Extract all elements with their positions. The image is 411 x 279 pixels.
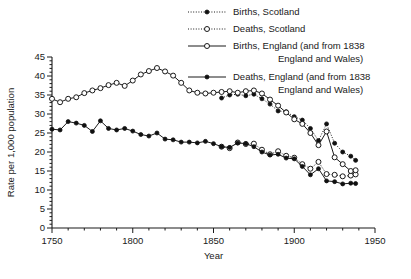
data-point	[179, 80, 184, 85]
data-point	[220, 145, 224, 149]
data-point	[74, 95, 79, 100]
data-point	[147, 134, 151, 138]
y-tick-label: 10	[34, 184, 45, 195]
y-tick-label: 20	[34, 146, 45, 157]
data-point	[308, 173, 312, 177]
data-point	[107, 126, 111, 130]
data-point	[98, 86, 103, 91]
x-tick-label: 1800	[122, 235, 143, 246]
data-point	[354, 158, 358, 162]
legend-marker-1	[205, 27, 210, 32]
data-point	[308, 166, 313, 171]
data-point	[187, 140, 191, 144]
data-point	[353, 168, 358, 173]
data-point	[66, 120, 70, 124]
data-point	[276, 103, 281, 108]
x-tick-label: 1850	[203, 235, 224, 246]
data-point	[260, 97, 264, 101]
y-tick-label: 40	[34, 70, 45, 81]
data-point	[228, 145, 232, 149]
data-point	[333, 141, 337, 145]
data-point	[90, 88, 95, 93]
births-deaths-line-chart: 05101520253035404517501800185019001950Ye…	[0, 0, 411, 279]
legend-marker-0	[205, 10, 209, 14]
data-point	[244, 94, 248, 98]
data-point	[324, 172, 329, 177]
data-point	[259, 91, 264, 96]
data-point	[138, 72, 143, 77]
data-point	[90, 129, 94, 133]
data-point	[220, 96, 224, 100]
data-point	[308, 126, 312, 130]
data-point	[163, 69, 168, 74]
data-point	[123, 126, 127, 130]
legend-label-0: Births, Scotland	[233, 6, 300, 17]
y-tick-label: 5	[40, 203, 45, 214]
data-point	[114, 80, 119, 85]
y-axis-title: Rate per 1,000 population	[5, 88, 16, 197]
data-point	[292, 157, 296, 161]
data-point	[300, 164, 304, 168]
data-point	[332, 155, 337, 160]
x-tick-label: 1750	[41, 235, 62, 246]
y-tick-label: 35	[34, 89, 45, 100]
data-point	[58, 128, 62, 132]
data-point	[171, 73, 176, 78]
series-births-scotland	[220, 92, 358, 162]
data-point	[349, 181, 353, 185]
data-point	[179, 140, 183, 144]
data-point	[236, 141, 240, 145]
data-point	[284, 156, 288, 160]
data-point	[235, 90, 240, 95]
legend-marker-2	[205, 44, 210, 49]
data-point	[98, 119, 102, 123]
legend-marker-3	[205, 75, 209, 79]
y-tick-label: 15	[34, 165, 45, 176]
data-point	[130, 78, 135, 83]
data-point	[316, 159, 321, 164]
data-point	[308, 131, 313, 136]
data-point	[251, 88, 256, 93]
data-point	[115, 128, 119, 132]
data-point	[325, 179, 329, 183]
data-point	[171, 138, 175, 142]
chart-legend: Births, ScotlandDeaths, ScotlandBirths, …	[188, 6, 370, 95]
data-point	[333, 180, 337, 184]
data-point	[82, 91, 87, 96]
data-point	[212, 142, 216, 146]
data-point	[66, 96, 71, 101]
data-point	[340, 174, 345, 179]
data-point	[284, 110, 289, 115]
data-point	[146, 69, 151, 74]
legend-label-cont-3: England and Wales)	[278, 84, 363, 95]
data-point	[50, 96, 55, 101]
data-point	[300, 121, 305, 126]
legend-label-3: Deaths, England (and from 1838	[233, 71, 370, 82]
data-point	[268, 97, 273, 102]
data-point	[316, 143, 321, 148]
data-point	[348, 169, 353, 174]
data-point	[154, 66, 159, 71]
data-point	[122, 83, 127, 88]
data-point	[276, 109, 280, 113]
data-point	[325, 122, 329, 126]
y-tick-label: 0	[40, 222, 45, 233]
data-point	[276, 152, 280, 156]
data-point	[74, 121, 78, 125]
x-axis-title: Year	[204, 250, 223, 261]
data-point	[268, 102, 272, 106]
data-point	[155, 131, 159, 135]
data-point	[341, 182, 345, 186]
data-point	[227, 89, 232, 94]
data-point	[332, 172, 337, 177]
series-line-births-scotland	[222, 94, 356, 160]
chart-figure: 05101520253035404517501800185019001950Ye…	[0, 0, 411, 279]
data-point	[316, 167, 320, 171]
data-point	[252, 145, 256, 149]
legend-label-2: Births, England (and from 1838	[233, 40, 365, 51]
data-point	[50, 127, 54, 131]
data-point	[324, 129, 329, 134]
data-point	[187, 88, 192, 93]
data-point	[203, 91, 208, 96]
y-tick-label: 45	[34, 51, 45, 62]
